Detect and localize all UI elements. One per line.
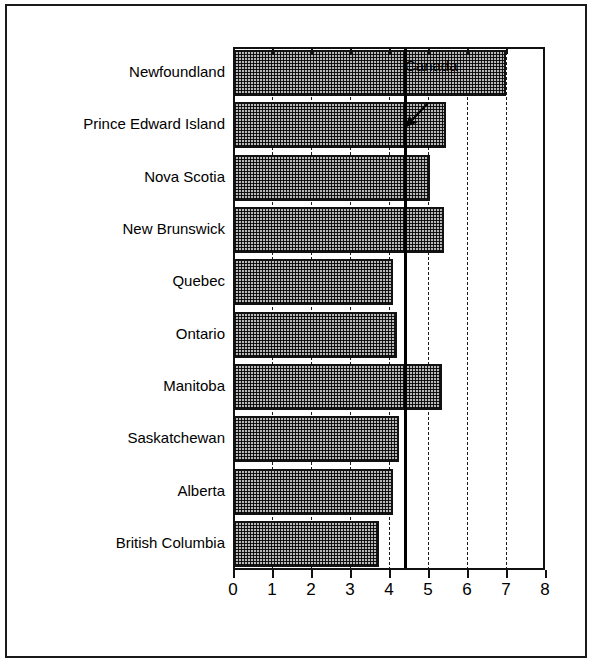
axis-tick-2 — [311, 570, 313, 578]
bar-row — [233, 469, 545, 515]
inner-tick-1 — [272, 47, 274, 54]
axis-tick-label-7: 7 — [494, 580, 518, 600]
bar-ontario — [233, 312, 397, 358]
bar-manitoba — [233, 364, 442, 410]
category-label-new-brunswick: New Brunswick — [5, 220, 225, 237]
inner-tick-4 — [389, 47, 391, 54]
axis-tick-label-2: 2 — [299, 580, 323, 600]
category-label-ontario: Ontario — [5, 325, 225, 342]
category-label-nova-scotia: Nova Scotia — [5, 168, 225, 185]
axis-tick-label-4: 4 — [377, 580, 401, 600]
bar-quebec — [233, 259, 393, 305]
axis-tick-label-5: 5 — [416, 580, 440, 600]
axis-tick-label-1: 1 — [260, 580, 284, 600]
axis-tick-label-3: 3 — [338, 580, 362, 600]
axis-tick-7 — [506, 570, 508, 578]
category-label-prince-edward-island: Prince Edward Island — [5, 115, 225, 132]
category-label-alberta: Alberta — [5, 482, 225, 499]
bar-saskatchewan — [233, 416, 399, 462]
value-axis: 012345678 — [233, 570, 545, 610]
inner-tick-3 — [350, 47, 352, 54]
canada-annotation-label: Canada — [405, 57, 458, 74]
category-label-newfoundland: Newfoundland — [5, 63, 225, 80]
bar-row — [233, 521, 545, 567]
axis-tick-4 — [389, 570, 391, 578]
inner-tick-6 — [467, 47, 469, 54]
canada-arrow-icon — [399, 100, 433, 134]
axis-tick-label-0: 0 — [221, 580, 245, 600]
bar-row — [233, 364, 545, 410]
bar-newfoundland — [233, 50, 506, 96]
bar-row — [233, 416, 545, 462]
category-label-british-columbia: British Columbia — [5, 534, 225, 551]
category-label-quebec: Quebec — [5, 272, 225, 289]
bar-nova-scotia — [233, 155, 430, 201]
axis-tick-1 — [272, 570, 274, 578]
category-label-manitoba: Manitoba — [5, 377, 225, 394]
chart-figure: NewfoundlandPrince Edward IslandNova Sco… — [0, 0, 594, 665]
bar-british-columbia — [233, 521, 379, 567]
bar-row — [233, 155, 545, 201]
category-label-saskatchewan: Saskatchewan — [5, 429, 225, 446]
inner-tick-5 — [428, 47, 430, 54]
axis-tick-5 — [428, 570, 430, 578]
bar-row — [233, 207, 545, 253]
axis-tick-0 — [233, 570, 235, 578]
axis-tick-6 — [467, 570, 469, 578]
axis-tick-label-8: 8 — [533, 580, 557, 600]
category-axis-labels: NewfoundlandPrince Edward IslandNova Sco… — [3, 47, 225, 570]
plot-area: Canada — [233, 47, 545, 570]
bar-alberta — [233, 469, 393, 515]
bar-new-brunswick — [233, 207, 444, 253]
bar-row — [233, 102, 545, 148]
axis-tick-8 — [545, 570, 547, 578]
bar-row — [233, 259, 545, 305]
axis-tick-3 — [350, 570, 352, 578]
axis-tick-label-6: 6 — [455, 580, 479, 600]
bar-row — [233, 50, 545, 96]
inner-tick-7 — [506, 47, 508, 54]
bar-row — [233, 312, 545, 358]
inner-tick-2 — [311, 47, 313, 54]
